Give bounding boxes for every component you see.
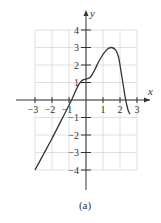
- figure-caption: (a): [79, 199, 92, 212]
- axes: [16, 10, 150, 190]
- x-tick-label: 2: [118, 104, 123, 115]
- y-tick-label: −2: [68, 130, 79, 141]
- y-tick-label: 3: [74, 42, 79, 53]
- function-graph: −3−2−1123−4−3−2−11234 x y (a): [0, 0, 161, 223]
- y-tick-label: 2: [74, 60, 79, 71]
- graph-figure: −3−2−1123−4−3−2−11234 x y (a): [0, 0, 161, 223]
- y-tick-label: −1: [68, 112, 79, 123]
- y-axis-arrow-icon: [84, 10, 89, 16]
- x-tick-label: −2: [45, 104, 56, 115]
- x-axis-arrow-icon: [144, 98, 150, 103]
- x-tick-label: −3: [28, 104, 39, 115]
- x-tick-label: 3: [135, 104, 140, 115]
- x-tick-label: 1: [101, 104, 106, 115]
- y-tick-label: −3: [68, 147, 79, 158]
- y-tick-label: −4: [68, 165, 79, 176]
- x-axis-label: x: [147, 85, 153, 97]
- y-tick-label: 4: [74, 25, 79, 36]
- y-axis-label: y: [89, 7, 95, 19]
